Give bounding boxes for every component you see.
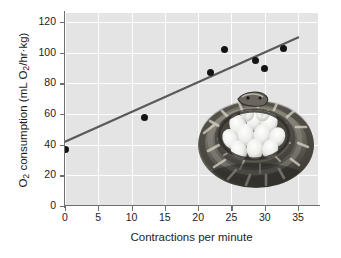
x-tick-label: 15 (152, 212, 178, 223)
data-point (252, 57, 259, 64)
x-tick-label: 10 (119, 212, 145, 223)
y-tick-mark (60, 83, 65, 84)
y-tick-mark (60, 206, 65, 207)
data-point (207, 69, 214, 76)
y-axis-title: O2 consumption (mL O2/hr·kg) (17, 5, 31, 215)
x-tick-label: 25 (218, 212, 244, 223)
data-point (221, 46, 228, 53)
y-tick-mark (60, 22, 65, 23)
y-title-part-2: consumption (mL O (17, 71, 29, 174)
x-tick-label: 35 (285, 212, 311, 223)
y-tick-mark (60, 145, 65, 146)
x-tick-label: 20 (185, 212, 211, 223)
x-axis-title: Contractions per minute (65, 231, 318, 243)
y-title-subscript-2: 2 (21, 66, 31, 71)
python-head (238, 92, 268, 106)
y-title-part-3: /hr·kg) (17, 33, 29, 66)
x-axis-line (64, 205, 320, 206)
x-tick-label: 5 (85, 212, 111, 223)
y-title-part-1: O (17, 179, 29, 188)
y-tick-mark (60, 53, 65, 54)
y-tick-mark (60, 175, 65, 176)
figure-container: 05101520253035 020406080100120 Contracti… (0, 0, 341, 258)
y-title-subscript-1: 2 (21, 174, 31, 179)
data-point (65, 146, 69, 153)
data-point (261, 65, 268, 72)
y-tick-mark (60, 114, 65, 115)
plot-area (65, 13, 318, 206)
x-tick-label: 0 (52, 212, 78, 223)
data-point (280, 45, 287, 52)
x-tick-label: 30 (252, 212, 278, 223)
y-axis-line (64, 11, 65, 208)
inset-photo-python-on-eggs (194, 85, 318, 192)
